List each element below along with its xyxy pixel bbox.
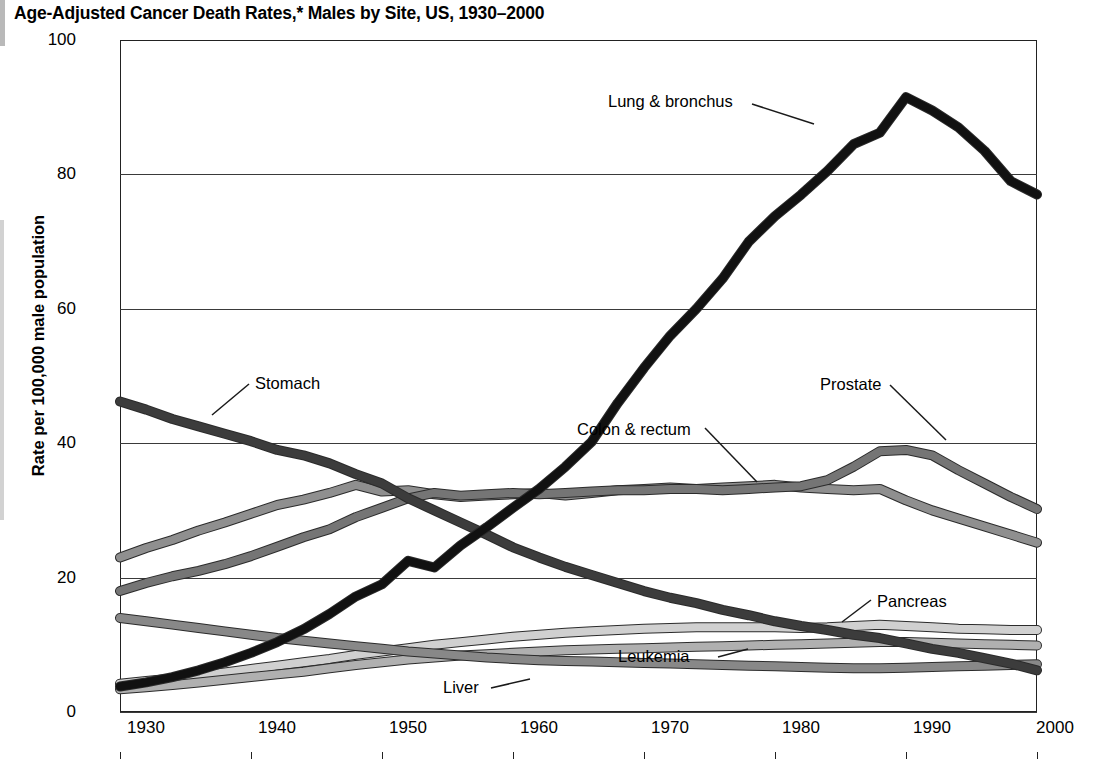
x-tick-mark-1990 <box>906 752 907 759</box>
series-label-lung: Lung & bronchus <box>608 92 733 111</box>
x-tick-label-1990: 1990 <box>887 718 977 738</box>
x-tick-mark-1960 <box>513 752 514 759</box>
y-tick-label-40: 40 <box>16 433 76 453</box>
x-tick-label-1950: 1950 <box>363 718 453 738</box>
y-tick-label-80: 80 <box>16 164 76 184</box>
series-label-liver: Liver <box>443 678 479 697</box>
series-label-pancreas: Pancreas <box>877 592 947 611</box>
x-tick-mark-1940 <box>251 752 252 759</box>
x-tick-label-1980: 1980 <box>756 718 846 738</box>
chart-title: Age-Adjusted Cancer Death Rates,* Males … <box>14 3 544 24</box>
y-tick-label-20: 20 <box>16 568 76 588</box>
x-tick-label-1930: 1930 <box>101 718 191 738</box>
x-tick-label-2000: 2000 <box>1010 718 1100 738</box>
series-label-prostate: Prostate <box>820 375 881 394</box>
y-tick-label-60: 60 <box>16 299 76 319</box>
x-tick-label-1970: 1970 <box>625 718 715 738</box>
series-label-stomach: Stomach <box>255 374 320 393</box>
y-tick-label-0: 0 <box>16 702 76 722</box>
x-tick-mark-1930 <box>120 752 121 759</box>
x-tick-label-1940: 1940 <box>232 718 322 738</box>
x-tick-label-1960: 1960 <box>494 718 584 738</box>
series-label-colon: Colon & rectum <box>577 420 691 439</box>
x-tick-mark-2000 <box>1037 752 1038 759</box>
series-label-leukemia: Leukemia <box>618 647 690 666</box>
y-axis-label: Rate per 100,000 male population <box>29 166 48 526</box>
x-tick-mark-1970 <box>644 752 645 759</box>
x-tick-mark-1980 <box>775 752 776 759</box>
x-tick-mark-1950 <box>382 752 383 759</box>
gridline-0 <box>120 712 1037 713</box>
y-tick-label-100: 100 <box>16 30 76 50</box>
